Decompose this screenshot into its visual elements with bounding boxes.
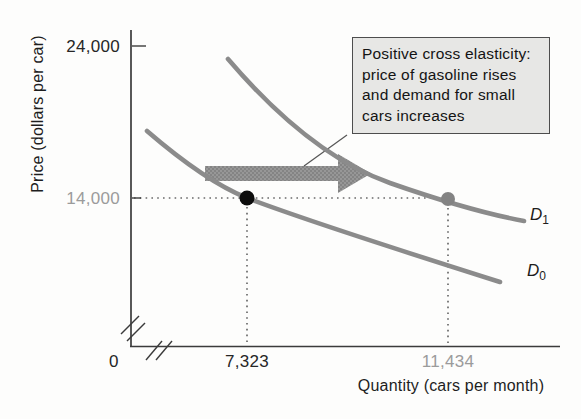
x-tick-label-7323: 7,323: [207, 352, 287, 372]
annotation-line: and demand for small: [362, 85, 540, 106]
quantity-axis-label: Quantity (cars per month): [345, 377, 557, 395]
annotation-line: price of gasoline rises: [362, 65, 540, 86]
curve-label-d0: D0: [527, 261, 546, 283]
point-on-d0: [240, 191, 255, 206]
x-axis-break-mark: [156, 341, 172, 360]
annotation-line: Positive cross elasticity:: [362, 44, 540, 65]
annotation-line: cars increases: [362, 106, 540, 127]
point-on-d1: [441, 192, 455, 206]
price-axis-label: Price (dollars per car): [29, 33, 47, 195]
figure: Price (dollars per car) 24,000 14,000 0 …: [0, 0, 581, 419]
x-axis-break-mark: [146, 341, 162, 360]
annotation-box: Positive cross elasticity: price of gaso…: [352, 37, 550, 134]
rightward-shift-arrow: [205, 154, 371, 193]
demand-curve-d0: [147, 131, 500, 282]
y-tick-label-24000: 24,000: [40, 37, 120, 57]
x-tick-label-0: 0: [96, 352, 132, 372]
curve-label-d1: D1: [530, 205, 549, 227]
curve-label-d0-subscript: 0: [539, 269, 546, 283]
y-tick-label-14000: 14,000: [40, 189, 120, 209]
x-tick-label-11434: 11,434: [408, 352, 488, 372]
curve-label-d0-letter: D: [527, 261, 539, 280]
curve-label-d1-letter: D: [530, 205, 542, 224]
curve-label-d1-subscript: 1: [542, 213, 549, 227]
